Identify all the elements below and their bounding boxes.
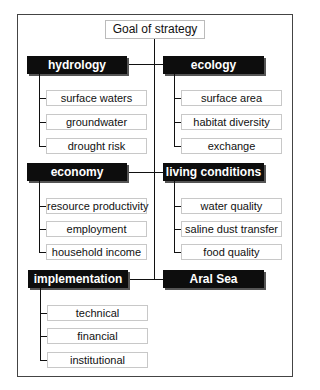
hydrology-header: hydrology: [27, 56, 127, 74]
branch-tick: [39, 229, 46, 230]
branch-tick: [174, 252, 181, 253]
implementation-header: implementation: [28, 270, 128, 288]
ecology-item: exchange: [181, 138, 282, 154]
economy-item: employment: [46, 221, 147, 237]
branch-tick: [39, 206, 46, 207]
ecology-branch: [174, 74, 175, 146]
branch-tick: [174, 206, 181, 207]
branch-tick: [40, 360, 47, 361]
central-connector: [154, 39, 155, 279]
economy-header: economy: [27, 163, 127, 181]
branch-tick: [174, 146, 181, 147]
hydrology-branch: [39, 74, 40, 146]
branch-tick: [40, 336, 47, 337]
hydrology-ecology-connector: [129, 64, 163, 65]
branch-tick: [174, 98, 181, 99]
implementation-aral-connector: [130, 279, 163, 280]
hydrology-item: surface waters: [46, 90, 147, 106]
branch-tick: [40, 313, 47, 314]
aral-sea-header: Aral Sea: [163, 270, 264, 288]
goal-box: Goal of strategy: [105, 20, 205, 39]
hydrology-item: drought risk: [46, 138, 147, 154]
living-conditions-item: water quality: [181, 198, 282, 214]
living-conditions-item: food quality: [181, 244, 282, 260]
economy-living-connector: [129, 172, 163, 173]
branch-tick: [39, 252, 46, 253]
economy-item: household income: [46, 244, 147, 260]
branch-tick: [39, 146, 46, 147]
ecology-item: surface area: [181, 90, 282, 106]
living-conditions-header: living conditions: [163, 163, 264, 181]
branch-tick: [174, 229, 181, 230]
ecology-item: habitat diversity: [181, 114, 282, 130]
economy-item: resource productivity: [46, 198, 147, 214]
economy-branch: [39, 181, 40, 252]
branch-tick: [39, 122, 46, 123]
branch-tick: [174, 122, 181, 123]
implementation-item: technical: [47, 305, 148, 321]
living-conditions-item: saline dust transfer: [181, 221, 282, 237]
ecology-header: ecology: [163, 56, 264, 74]
living-conditions-branch: [174, 181, 175, 252]
branch-tick: [39, 98, 46, 99]
implementation-branch: [40, 288, 41, 360]
implementation-item: institutional: [47, 352, 148, 368]
hydrology-item: groundwater: [46, 114, 147, 130]
implementation-item: financial: [47, 328, 148, 344]
